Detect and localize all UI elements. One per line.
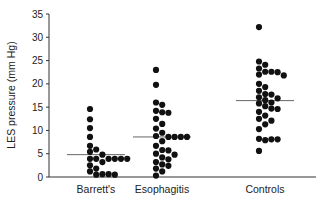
data-point xyxy=(153,151,159,157)
data-point xyxy=(256,71,262,77)
data-point xyxy=(106,171,112,177)
data-point xyxy=(268,136,274,142)
data-point xyxy=(262,137,268,143)
data-point xyxy=(87,134,93,140)
data-point xyxy=(172,134,178,140)
data-point xyxy=(153,159,159,165)
data-point xyxy=(275,106,281,112)
data-point xyxy=(87,156,93,162)
data-point xyxy=(184,134,190,140)
data-point xyxy=(256,94,262,100)
data-point xyxy=(153,173,159,179)
data-point xyxy=(93,156,99,162)
data-point xyxy=(256,148,262,154)
y-tick-label: 0 xyxy=(37,172,43,183)
y-tick-label: 10 xyxy=(32,125,44,136)
data-point xyxy=(153,166,159,172)
data-point xyxy=(153,116,159,122)
data-point xyxy=(256,88,262,94)
data-point xyxy=(262,84,268,90)
data-point xyxy=(256,126,262,132)
data-point xyxy=(256,58,262,64)
data-point xyxy=(87,106,93,112)
data-point xyxy=(262,112,268,118)
data-point xyxy=(172,152,178,158)
data-point xyxy=(93,172,99,178)
data-point xyxy=(256,136,262,142)
data-point xyxy=(256,24,262,30)
data-point xyxy=(106,156,112,162)
data-point xyxy=(262,97,268,103)
y-axis: 05101520253035 xyxy=(32,9,49,183)
data-point xyxy=(99,171,105,177)
data-point xyxy=(256,100,262,106)
data-point xyxy=(281,72,287,78)
data-point xyxy=(262,121,268,127)
data-point xyxy=(159,109,165,115)
plot-area: 05101520253035 Barrett'sEsophagitisContr… xyxy=(0,0,316,202)
data-point xyxy=(99,159,105,165)
data-point xyxy=(159,154,165,160)
y-tick-label: 25 xyxy=(32,55,44,66)
data-point xyxy=(87,168,93,174)
data-point xyxy=(165,147,171,153)
data-point xyxy=(256,81,262,87)
les-pressure-dot-plot: 05101520253035 Barrett'sEsophagitisContr… xyxy=(0,0,316,202)
data-point xyxy=(268,69,274,75)
data-point xyxy=(165,134,171,140)
data-point xyxy=(153,125,159,131)
data-point xyxy=(93,166,99,172)
data-point xyxy=(159,168,165,174)
data-point xyxy=(87,125,93,131)
data-point xyxy=(256,65,262,71)
data-point xyxy=(268,118,274,124)
data-point xyxy=(112,172,118,178)
data-point xyxy=(165,163,171,169)
y-tick-label: 15 xyxy=(32,102,44,113)
data-point xyxy=(178,134,184,140)
y-axis-label: LES pressure (mm Hg) xyxy=(5,41,17,148)
data-point xyxy=(159,121,165,127)
data-point xyxy=(87,143,93,149)
data-point xyxy=(153,143,159,149)
data-point xyxy=(153,133,159,139)
data-point xyxy=(159,130,165,136)
y-tick-label: 5 xyxy=(37,148,43,159)
data-point xyxy=(268,91,274,97)
data-point xyxy=(153,67,159,73)
data-point xyxy=(275,69,281,75)
data-point xyxy=(112,156,118,162)
data-point xyxy=(275,136,281,142)
data-point xyxy=(159,161,165,167)
data-point xyxy=(153,99,159,105)
x-tick-label: Esophagitis xyxy=(135,183,189,195)
x-tick-label: Controls xyxy=(245,183,284,195)
data-point xyxy=(153,108,159,114)
data-point xyxy=(256,116,262,122)
data-point xyxy=(262,62,268,68)
data-point xyxy=(118,156,124,162)
data-point xyxy=(87,162,93,168)
data-point xyxy=(87,149,93,155)
data-point xyxy=(262,69,268,75)
data-point xyxy=(159,102,165,108)
data-point xyxy=(268,99,274,105)
x-tick-label: Barrett's xyxy=(77,183,116,195)
data-points xyxy=(87,24,287,179)
data-point xyxy=(256,109,262,115)
data-point xyxy=(262,103,268,109)
data-point xyxy=(153,82,159,88)
data-point xyxy=(165,156,171,162)
data-point xyxy=(159,138,165,144)
data-point xyxy=(159,147,165,153)
data-point xyxy=(262,91,268,97)
y-tick-label: 35 xyxy=(32,9,44,20)
data-point xyxy=(165,110,171,116)
data-point xyxy=(275,95,281,101)
y-tick-label: 20 xyxy=(32,78,44,89)
y-tick-label: 30 xyxy=(32,32,44,43)
data-point xyxy=(124,156,130,162)
data-point xyxy=(268,105,274,111)
data-point xyxy=(87,116,93,122)
x-axis: Barrett'sEsophagitisControls xyxy=(49,177,316,195)
